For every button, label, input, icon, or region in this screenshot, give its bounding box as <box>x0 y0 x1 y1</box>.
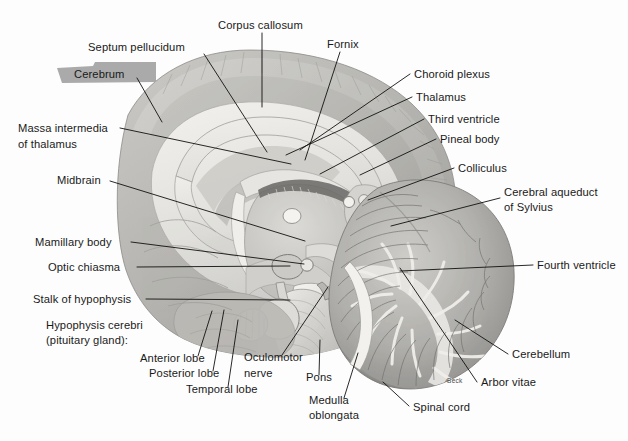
label-of-sylvius: of Sylvius <box>504 201 553 213</box>
pineal-body-knob <box>344 197 355 208</box>
label-medulla: Medulla <box>309 394 350 406</box>
label-anterior-lobe: Anterior lobe <box>140 352 205 364</box>
artist-signature: Beck <box>447 377 463 384</box>
label-temporal-lobe: Temporal lobe <box>186 383 258 395</box>
label-third-ventricle: Third ventricle <box>428 113 500 125</box>
label-fornix: Fornix <box>327 38 359 50</box>
label-cerebral-aqueduct: Cerebral aqueduct <box>504 186 599 198</box>
label-oblongata: oblongata <box>309 409 360 421</box>
label-pineal-body: Pineal body <box>440 133 500 145</box>
label-cerebellum: Cerebellum <box>512 348 570 360</box>
label-oculomotor: Oculomotor <box>244 351 303 363</box>
label-of-thalamus: of thalamus <box>18 138 77 150</box>
brain-diagram-svg: Septum pellucidum Corpus callosum Fornix… <box>0 0 628 441</box>
label-thalamus: Thalamus <box>416 91 466 103</box>
label-colliculus: Colliculus <box>458 162 507 174</box>
label-stalk-of-hypophysis: Stalk of hypophysis <box>33 293 132 305</box>
label-septum-pellucidum: Septum pellucidum <box>88 41 185 53</box>
label-optic-chiasma: Optic chiasma <box>48 261 121 273</box>
label-mamillary-body: Mamillary body <box>35 236 112 248</box>
label-posterior-lobe: Posterior lobe <box>149 367 219 379</box>
optic-chiasma-loop <box>272 255 303 280</box>
label-choroid-plexus: Choroid plexus <box>414 68 490 80</box>
label-pons: Pons <box>306 371 332 383</box>
label-corpus-callosum: Corpus callosum <box>218 19 303 31</box>
brain-anatomy-figure: Septum pellucidum Corpus callosum Fornix… <box>0 0 628 441</box>
label-cerebrum: Cerebrum <box>74 68 125 80</box>
label-massa-intermedia: Massa intermedia <box>18 122 109 134</box>
massa-intermedia-oval <box>283 209 301 224</box>
label-arbor-vitae: Arbor vitae <box>481 376 536 388</box>
label-nerve: nerve <box>244 367 273 379</box>
label-pituitary-gland: (pituitary gland): <box>46 334 128 346</box>
mamillary-body-knob <box>301 259 313 271</box>
label-midbrain: Midbrain <box>57 174 101 186</box>
label-hypophysis-cerebri: Hypophysis cerebri <box>46 319 143 331</box>
label-spinal-cord: Spinal cord <box>413 401 470 413</box>
label-fourth-ventricle: Fourth ventricle <box>537 259 616 271</box>
